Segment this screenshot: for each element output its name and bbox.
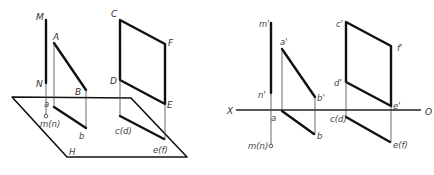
label-C: C [111, 9, 118, 19]
label-a-prime: a' [280, 37, 288, 47]
point-mn-top [269, 144, 273, 148]
label-mn: m(n) [40, 119, 60, 129]
label-O: O [425, 107, 432, 117]
label-E: E [167, 100, 173, 110]
label-b-top: b [317, 131, 322, 141]
label-N: N [36, 79, 43, 89]
h-plane-label: H [69, 147, 76, 157]
line-ab-top [282, 111, 314, 134]
pictorial-view: H M N m(n) A B a b C F D E c(d) e(f) [12, 9, 187, 157]
label-b: b [79, 131, 84, 141]
plane-cdef [120, 20, 165, 104]
label-ef: e(f) [153, 145, 168, 155]
plane-cdef-top [346, 117, 390, 142]
label-a: a [44, 99, 49, 109]
line-ab [54, 43, 86, 90]
label-M: M [36, 12, 44, 22]
line-ab-front [282, 49, 315, 97]
label-m-prime: m' [259, 19, 270, 29]
label-e-prime: e' [393, 101, 401, 111]
label-ef-top: e(f) [393, 140, 408, 150]
label-F: F [168, 38, 174, 48]
label-cd-top: c(d) [330, 114, 347, 124]
label-cd: c(d) [115, 126, 132, 136]
label-b-prime: b' [317, 93, 325, 103]
label-X: X [226, 106, 234, 116]
orthographic-view: X O m' n' m(n) a' b' a b c' f' d' e' c(d… [226, 19, 432, 151]
plane-cdef-front [346, 22, 391, 106]
label-B: B [75, 87, 81, 97]
label-d-prime: d' [334, 78, 342, 88]
label-a-top: a [271, 113, 276, 123]
projection-diagram: H M N m(n) A B a b C F D E c(d) e(f) X O [0, 0, 434, 175]
label-f-prime: f' [397, 43, 402, 53]
label-n-prime: n' [258, 90, 266, 100]
label-D: D [110, 76, 117, 86]
label-mn-top: m(n) [248, 141, 268, 151]
point-mn-projection [44, 114, 48, 118]
label-c-prime: c' [336, 19, 343, 29]
label-A: A [52, 32, 59, 42]
